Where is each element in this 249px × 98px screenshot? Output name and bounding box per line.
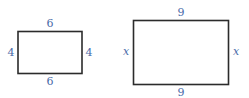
large-rect-top-label: 9 (178, 6, 185, 19)
small-rectangle-group: 6 6 4 4 (8, 17, 93, 88)
large-rect-left-label: x (123, 45, 130, 58)
small-rect-top-label: 6 (47, 17, 54, 30)
rectangles-diagram: 6 6 4 4 9 9 x x (0, 0, 249, 98)
large-rectangle-group: 9 9 x x (123, 6, 240, 98)
small-rect-bottom-label: 6 (47, 75, 54, 88)
large-rect-right-label: x (233, 45, 240, 58)
small-rectangle (18, 32, 82, 74)
large-rectangle (134, 21, 229, 85)
small-rect-left-label: 4 (8, 46, 15, 59)
large-rect-bottom-label: 9 (178, 86, 185, 98)
small-rect-right-label: 4 (86, 46, 93, 59)
